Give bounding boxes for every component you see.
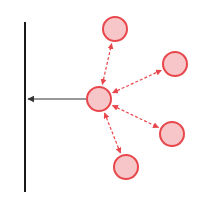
- node-center: [87, 87, 111, 111]
- node-top: [103, 17, 127, 41]
- dashed-link-lower-right: [113, 105, 159, 127]
- dashed-link-top: [102, 44, 111, 85]
- dashed-link-bottom: [105, 113, 121, 153]
- nodes: [87, 17, 187, 179]
- force-diagram-canvas: [0, 0, 212, 202]
- dashed-link-upper-right: [113, 70, 162, 92]
- node-bottom: [114, 155, 138, 179]
- node-lower-right: [160, 122, 184, 146]
- node-upper-right: [163, 52, 187, 76]
